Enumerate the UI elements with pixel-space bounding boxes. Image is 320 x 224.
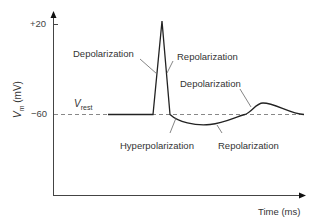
y-axis-unit: (mV) <box>12 81 23 105</box>
diagram-canvas <box>0 0 320 224</box>
vrest-subscript: rest <box>81 104 93 111</box>
action-potential-curve <box>108 21 304 125</box>
vrest-symbol: V <box>74 98 81 109</box>
x-axis-arrow-icon <box>299 193 306 199</box>
annotation-depolarization-1: Depolarization <box>73 49 134 59</box>
leader-hyperpolarization <box>170 118 176 133</box>
tick-label-minus60: −60 <box>31 109 47 119</box>
annotation-depolarization-2: Depolarization <box>180 79 241 89</box>
y-axis-arrow-icon <box>51 11 57 18</box>
action-potential-diagram: +20 −60 Vm (mV) Vrest Depolarization Rep… <box>0 0 320 224</box>
annotation-hyperpolarization: Hyperpolarization <box>120 141 194 151</box>
annotation-repolarization-1: Repolarization <box>177 52 238 62</box>
x-axis-label: Time (ms) <box>258 207 300 217</box>
leader-depolarization-1 <box>140 59 157 74</box>
y-axis-label: Vm (mV) <box>13 81 25 118</box>
leader-repolarization-1 <box>167 61 173 73</box>
leader-depolarization-2 <box>240 89 251 107</box>
leader-repolarization-2 <box>217 125 222 133</box>
y-axis-symbol: V <box>12 111 23 118</box>
annotation-repolarization-2: Repolarization <box>218 141 279 151</box>
y-axis-subscript: m <box>18 105 25 111</box>
resting-potential-label: Vrest <box>74 99 92 111</box>
tick-label-plus20: +20 <box>30 19 46 29</box>
